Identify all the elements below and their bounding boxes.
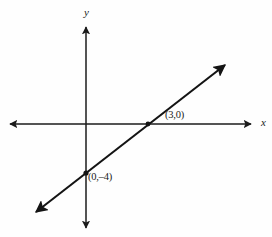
- y-intercept-label: (0,–4): [88, 172, 112, 183]
- x-intercept-point: [146, 122, 151, 127]
- x-axis-label: x: [261, 117, 266, 128]
- graph-figure: y x (0,–4) (3,0): [0, 0, 272, 237]
- plotted-line: [36, 65, 225, 212]
- x-intercept-label: (3,0): [165, 110, 184, 121]
- y-axis-label: y: [84, 7, 89, 18]
- coordinate-plane-svg: [0, 0, 272, 237]
